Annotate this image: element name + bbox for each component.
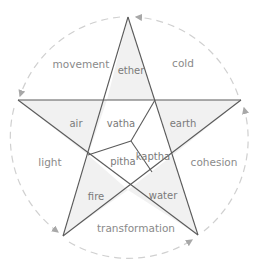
point-ether bbox=[107, 17, 155, 100]
dosha-label-pitha: pitha bbox=[110, 156, 136, 167]
arc-bottom-left-to-bottom-right bbox=[69, 240, 192, 258]
quality-label-movement: movement bbox=[53, 58, 110, 70]
quality-label-transformation: transformation bbox=[97, 222, 175, 234]
point-air bbox=[18, 100, 107, 155]
arc-bottom-right-to-right bbox=[204, 108, 248, 231]
element-label-water: water bbox=[149, 190, 178, 201]
element-label-fire: fire bbox=[88, 191, 104, 202]
quality-label-light: light bbox=[38, 156, 61, 168]
pentagram-diagram: ether air earth fire water vatha kaptha … bbox=[0, 0, 254, 267]
element-label-air: air bbox=[69, 118, 83, 129]
element-label-earth: earth bbox=[170, 118, 197, 129]
dosha-label-kaptha: kaptha bbox=[136, 151, 170, 162]
element-label-ether: ether bbox=[118, 65, 146, 76]
point-earth bbox=[155, 100, 241, 155]
quality-label-cold: cold bbox=[172, 57, 194, 69]
arc-right-to-top bbox=[136, 17, 238, 95]
dosha-label-vatha: vatha bbox=[107, 118, 135, 129]
arc-top-to-left bbox=[20, 17, 120, 96]
arc-left-to-bottom-left bbox=[10, 108, 58, 232]
quality-label-cohesion: cohesion bbox=[191, 156, 238, 168]
